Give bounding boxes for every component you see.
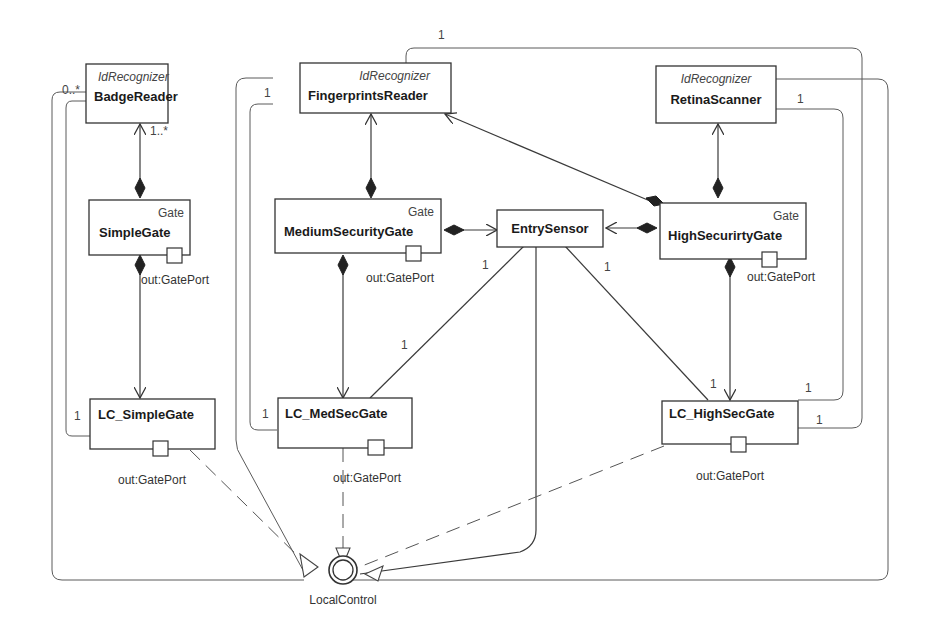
port-label: out:GatePort — [333, 471, 402, 485]
diamond-medsec-right — [444, 225, 464, 235]
class-name: EntrySensor — [511, 221, 588, 236]
stereotype-label: Gate — [158, 206, 184, 220]
stereotype-label: IdRecognizer — [98, 70, 170, 84]
port-out[interactable] — [406, 246, 421, 261]
fingerprints-outer-loop — [236, 78, 304, 572]
diamond-medsec-bottom — [338, 255, 348, 275]
class-name: HighSecurirtyGate — [668, 228, 782, 243]
diamond-highsec-left — [637, 223, 657, 233]
diamond-simplegate-top — [135, 178, 145, 198]
class-name: LC_SimpleGate — [98, 407, 194, 422]
class-name: BadgeReader — [94, 89, 178, 104]
entrysensor-lchighsec-link — [565, 246, 708, 400]
fingerprints-to-lc-medsec — [250, 104, 277, 430]
mult-lc-highsec-right-lower: 1 — [816, 413, 823, 427]
mult-lc-medsec-left: 1 — [262, 407, 269, 421]
diamond-highsec-bottom — [725, 257, 735, 277]
class-lc-high-sec-gate[interactable]: LC_HighSecGate out:GatePort — [662, 401, 798, 483]
mult-badge-reader-bottom: 1..* — [150, 124, 168, 138]
mult-badge-reader-left: 0..* — [62, 83, 80, 97]
port-label: out:GatePort — [118, 473, 187, 487]
mult-fingerprints-left: 1 — [264, 86, 271, 100]
class-retina-scanner[interactable]: IdRecognizer RetinaScanner — [656, 66, 776, 123]
class-simple-gate[interactable]: Gate SimpleGate out:GatePort — [89, 200, 210, 287]
port-out[interactable] — [368, 440, 384, 455]
class-lc-simple-gate[interactable]: LC_SimpleGate out:GatePort — [90, 399, 215, 487]
mult-lc-highsec-right-upper: 1 — [805, 381, 812, 395]
diamond-highsec-top — [713, 178, 723, 198]
interface-inner-circle — [333, 560, 353, 580]
stereotype-label: Gate — [773, 209, 799, 223]
highsec-fingerprints-link — [445, 114, 650, 201]
class-name: LC_HighSecGate — [669, 406, 774, 421]
mult-entry-from-highsec: 1 — [604, 260, 611, 274]
class-medium-security-gate[interactable]: Gate MediumSecurityGate out:GatePort — [275, 199, 441, 285]
connectors — [52, 48, 888, 581]
class-name: SimpleGate — [99, 225, 171, 240]
stereotype-label: IdRecognizer — [681, 72, 753, 86]
mult-retina-right: 1 — [797, 92, 804, 106]
class-lc-med-sec-gate[interactable]: LC_MedSecGate out:GatePort — [278, 398, 412, 485]
port-label: out:GatePort — [747, 270, 816, 284]
port-label: out:GatePort — [366, 271, 435, 285]
port-label: out:GatePort — [141, 273, 210, 287]
port-out[interactable] — [153, 441, 168, 456]
mult-lc-highsec-top: 1 — [710, 377, 717, 391]
badge-reader-outer-loop — [52, 92, 304, 580]
class-name: MediumSecurityGate — [284, 224, 413, 239]
port-out[interactable] — [762, 252, 777, 267]
diamond-medsec-top — [366, 178, 376, 198]
class-fingerprints-reader[interactable]: IdRecognizer FingerprintsReader — [300, 63, 451, 113]
interface-label: LocalControl — [309, 593, 376, 607]
badge-reader-to-lc-simplegate — [66, 101, 90, 436]
class-name: RetinaScanner — [670, 92, 761, 107]
interface-local-control[interactable]: LocalControl — [309, 556, 376, 607]
lcsimple-port-dependency — [190, 450, 305, 563]
mult-fingerprints-top: 1 — [438, 28, 445, 42]
entrysensor-lcmedsec-link — [370, 246, 524, 398]
mult-entry-from-medsec: 1 — [482, 258, 489, 272]
mult-lc-simple-left: 1 — [74, 409, 81, 423]
lchighsec-port-dependency — [357, 446, 664, 568]
port-out[interactable] — [167, 248, 182, 263]
class-name: LC_MedSecGate — [285, 406, 388, 421]
class-badge-reader[interactable]: IdRecognizer BadgeReader — [86, 64, 178, 123]
uml-diagram-canvas: IdRecognizer BadgeReader IdRecognizer Fi… — [0, 0, 930, 617]
port-out[interactable] — [731, 437, 746, 452]
diamond-simplegate-bottom — [135, 255, 145, 275]
class-entry-sensor[interactable]: EntrySensor — [497, 210, 603, 247]
port-label: out:GatePort — [696, 469, 765, 483]
stereotype-label: IdRecognizer — [359, 69, 431, 83]
class-high-security-gate[interactable]: Gate HighSecurirtyGate out:GatePort — [660, 203, 816, 284]
retina-outer-loop — [352, 79, 888, 580]
realization-arrowhead-right — [365, 566, 383, 581]
mult-entry-to-lc-medsec: 1 — [401, 338, 408, 352]
stereotype-label: Gate — [408, 205, 434, 219]
realization-arrowhead-left — [300, 554, 318, 577]
class-name: FingerprintsReader — [308, 88, 428, 103]
